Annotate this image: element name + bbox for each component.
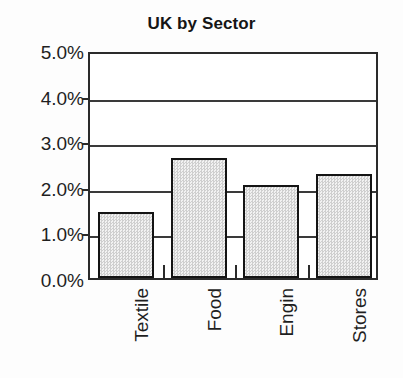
- chart-title: UK by Sector: [0, 14, 403, 34]
- y-axis-tick-mark: [82, 189, 88, 191]
- bar: [243, 185, 299, 278]
- gridline: [90, 145, 376, 147]
- x-axis-category-label: Food: [205, 288, 224, 331]
- y-axis-tick-label: 5.0%: [2, 43, 84, 62]
- y-axis-tick-label: 3.0%: [2, 134, 84, 153]
- x-axis-tick-mark: [235, 265, 237, 278]
- plot-area: [88, 52, 378, 280]
- bar-chart-figure: UK by Sector 5.0%4.0%3.0%2.0%1.0%0.0%Tex…: [0, 0, 403, 378]
- bar: [98, 212, 154, 278]
- y-axis-tick-label: 2.0%: [2, 180, 84, 199]
- bar: [171, 158, 227, 278]
- gridline: [90, 100, 376, 102]
- bar: [316, 174, 372, 278]
- y-axis-tick-label: 1.0%: [2, 225, 84, 244]
- y-axis-tick-mark: [82, 234, 88, 236]
- y-axis-tick-mark: [82, 98, 88, 100]
- x-axis-category-label: Textile: [132, 288, 151, 342]
- x-axis-tick-mark: [163, 265, 165, 278]
- y-axis-tick-label: 4.0%: [2, 89, 84, 108]
- x-axis-category-label: Engin: [277, 288, 296, 337]
- y-axis-tick-mark: [82, 143, 88, 145]
- x-axis-category-label: Stores: [350, 288, 369, 343]
- x-axis-tick-mark: [308, 265, 310, 278]
- y-axis-tick-label: 0.0%: [2, 271, 84, 290]
